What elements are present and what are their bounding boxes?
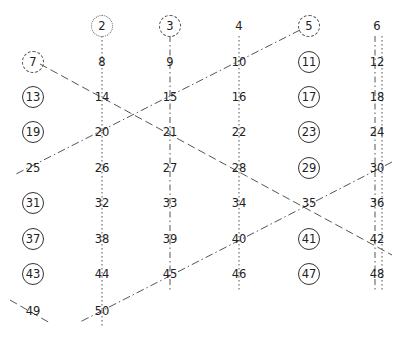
number-31: 31	[22, 192, 44, 214]
number-18: 18	[365, 87, 389, 107]
number-12: 12	[365, 52, 389, 72]
number-6: 6	[365, 16, 389, 36]
number-33: 33	[158, 193, 182, 213]
multiples-of-5-upper-line	[14, 30, 300, 175]
number-35: 35	[297, 193, 321, 213]
number-21: 21	[158, 122, 182, 142]
number-43: 43	[22, 263, 44, 285]
number-25: 25	[21, 158, 45, 178]
number-8: 8	[90, 52, 114, 72]
number-7: 7	[22, 51, 44, 73]
number-19: 19	[22, 121, 44, 143]
number-13: 13	[22, 86, 44, 108]
number-9: 9	[158, 52, 182, 72]
number-41: 41	[298, 228, 320, 250]
number-11: 11	[298, 51, 320, 73]
number-14: 14	[90, 87, 114, 107]
number-15: 15	[158, 87, 182, 107]
number-39: 39	[158, 229, 182, 249]
number-34: 34	[227, 193, 251, 213]
number-3: 3	[159, 15, 181, 37]
number-29: 29	[298, 157, 320, 179]
number-37: 37	[22, 228, 44, 250]
number-50: 50	[90, 301, 114, 321]
number-20: 20	[90, 122, 114, 142]
number-38: 38	[90, 229, 114, 249]
number-16: 16	[227, 87, 251, 107]
number-28: 28	[227, 158, 251, 178]
number-40: 40	[227, 229, 251, 249]
number-47: 47	[298, 263, 320, 285]
number-46: 46	[227, 264, 251, 284]
number-4: 4	[227, 16, 251, 36]
number-36: 36	[365, 193, 389, 213]
number-45: 45	[158, 264, 182, 284]
number-44: 44	[90, 264, 114, 284]
number-10: 10	[227, 52, 251, 72]
number-26: 26	[90, 158, 114, 178]
number-30: 30	[365, 158, 389, 178]
number-5: 5	[298, 15, 320, 37]
number-23: 23	[298, 121, 320, 143]
number-49: 49	[21, 301, 45, 321]
number-27: 27	[158, 158, 182, 178]
sieve-diagram: 2345678910111213141516171819202122232425…	[0, 0, 411, 337]
number-42: 42	[365, 229, 389, 249]
number-17: 17	[298, 86, 320, 108]
crossing-lines	[0, 0, 411, 337]
number-24: 24	[365, 122, 389, 142]
number-2: 2	[91, 15, 113, 37]
number-32: 32	[90, 193, 114, 213]
number-22: 22	[227, 122, 251, 142]
number-48: 48	[365, 264, 389, 284]
